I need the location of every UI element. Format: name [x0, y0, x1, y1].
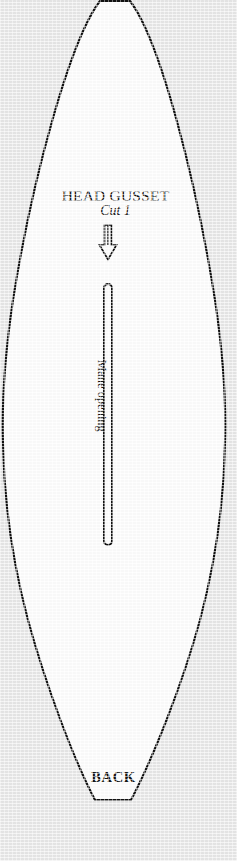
cut-instruction-label: Cut 1 — [0, 204, 234, 218]
pattern-piece-drawing — [0, 0, 237, 861]
piece-title: HEAD GUSSET — [0, 188, 234, 204]
back-orientation-label: BACK — [0, 770, 232, 785]
mane-opening-label: Mane opening — [96, 360, 109, 432]
pattern-page: HEAD GUSSET Cut 1 Mane opening BACK — [0, 0, 237, 861]
head-gusset-outline — [3, 1, 225, 800]
